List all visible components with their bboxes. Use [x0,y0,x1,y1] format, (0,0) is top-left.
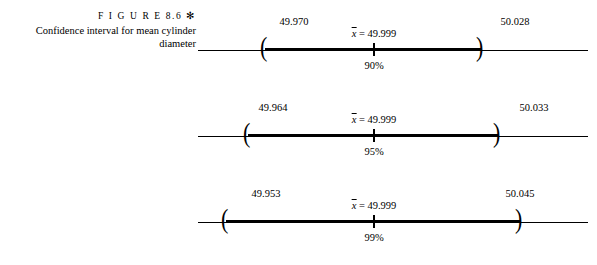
mean-label: x = 49.999 [352,114,397,125]
confidence-level-label: 90% [364,60,383,71]
left-paren-glyph: ( [260,33,267,61]
x-bar-symbol: x [352,114,357,125]
figure-number-label: F I G U R E 8.6 ✻ [0,10,196,23]
center-tick [373,215,375,228]
figure-caption-block: F I G U R E 8.6 ✻ Confidence interval fo… [0,10,196,50]
figure-container: F I G U R E 8.6 ✻ Confidence interval fo… [0,0,597,265]
x-bar-symbol: x [352,200,357,211]
left-paren-glyph: ( [243,119,250,147]
mean-value: 49.999 [367,114,396,125]
mean-label: x = 49.999 [352,28,397,39]
x-bar-symbol: x [352,28,357,39]
left-paren-glyph: ( [221,205,228,233]
confidence-level-label: 99% [364,232,383,243]
confidence-interval-group-95: ( ) 49.964 50.033 x = 49.999 95% [198,92,588,170]
mean-value: 49.999 [367,200,396,211]
figure-caption-text: Confidence interval for mean cylinder di… [0,24,196,50]
center-tick [373,43,375,56]
upper-bound-label: 50.033 [520,102,549,113]
right-paren-glyph: ) [493,119,500,147]
mean-equals-value: = [356,114,367,125]
mean-label: x = 49.999 [352,200,397,211]
confidence-level-label: 95% [364,146,383,157]
confidence-interval-group-99: ( ) 49.953 50.045 x = 49.999 99% [198,178,588,256]
lower-bound-label: 49.970 [280,16,309,27]
lower-bound-label: 49.953 [252,188,281,199]
figure-caption-line-1: Confidence interval for mean cylinder [0,24,196,37]
upper-bound-label: 50.028 [501,16,530,27]
figure-caption-line-2: diameter [0,37,196,50]
mean-equals-value: = [356,200,367,211]
center-tick [373,129,375,142]
mean-value: 49.999 [367,28,396,39]
upper-bound-label: 50.045 [506,188,535,199]
lower-bound-label: 49.964 [259,102,288,113]
confidence-interval-group-90: ( ) 49.970 50.028 x = 49.999 90% [198,6,588,84]
right-paren-glyph: ) [476,33,483,61]
right-paren-glyph: ) [515,205,522,233]
mean-equals-value: = [356,28,367,39]
